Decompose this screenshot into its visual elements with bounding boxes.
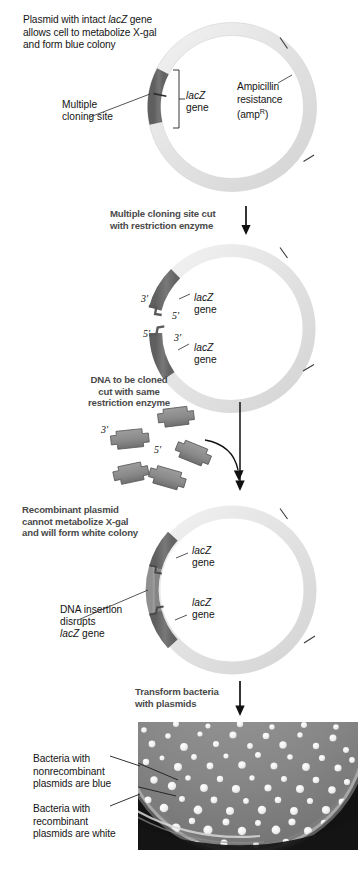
label-lacz-gene-upper: lacZ gene xyxy=(194,292,217,316)
insertion-line1: DNA insertion xyxy=(60,604,152,616)
down-arrow-icon xyxy=(232,681,248,717)
panel3-line3: and will form white colony xyxy=(22,527,182,539)
prime-label-5-lower: 5′ xyxy=(143,328,150,339)
label-leader-lines xyxy=(110,750,142,820)
label-ampicillin-resistance: Ampicillin resistance (ampR) xyxy=(237,81,282,122)
step1-line2: with restriction enzyme xyxy=(110,220,242,232)
gene-word: gene xyxy=(194,354,217,366)
prime-label-3-lower: 3′ xyxy=(174,332,181,343)
lacz-bracket xyxy=(173,70,179,128)
label-lacz-gene-lower-panel3: lacZ gene xyxy=(192,597,215,621)
down-arrow-icon xyxy=(232,402,248,492)
petri-dish-photo xyxy=(138,722,358,850)
white-line3: plasmids are white xyxy=(33,828,145,841)
figure-canvas: Plasmid with intact lacZ gene allows cel… xyxy=(0,0,360,872)
leader-line-lacz-lower xyxy=(178,344,189,350)
prime-label-3-upper: 3′ xyxy=(141,293,148,304)
restriction-site-tick xyxy=(304,155,315,162)
lacz-italic: lacZ xyxy=(186,90,209,102)
dna-fragment xyxy=(110,428,150,450)
amp-line3-pre: (amp xyxy=(237,110,260,121)
label-lacz-gene-panel1: lacZ gene xyxy=(186,90,209,114)
lacz-italic: lacZ xyxy=(194,342,217,354)
step1-heading: Multiple cloning site cut with restricti… xyxy=(110,208,242,231)
gene-word: gene xyxy=(192,609,215,621)
caption-text: and form blue colony xyxy=(23,39,191,52)
label-lacz-gene-upper-panel3: lacZ gene xyxy=(192,545,215,569)
lacz-gene-lower-fragment xyxy=(156,333,170,376)
lacz-italic: lacZ xyxy=(60,628,79,639)
lacz-italic: lacZ xyxy=(192,545,215,557)
caption-text: gene xyxy=(127,14,152,25)
caption-text: Plasmid with intact xyxy=(23,14,108,25)
amp-line3-post: ) xyxy=(265,110,268,121)
leader-line-lacz-lower xyxy=(175,615,187,620)
fragment-prime-label-5: 5′ xyxy=(154,444,161,455)
lacz-gene-upper-fragment xyxy=(155,274,175,309)
step2-line1: DNA to be cloned xyxy=(58,374,200,386)
mcs-label-line1: Multiple xyxy=(62,99,134,111)
lacz-italic: lacZ xyxy=(192,597,215,609)
label-multiple-cloning-site: Multiple cloning site xyxy=(62,99,134,123)
panel3-line2: cannot metabolize X-gal xyxy=(22,516,182,528)
inserted-dna-segment xyxy=(152,568,155,612)
insertion-line2: disrupts xyxy=(60,616,152,628)
panel1-caption: Plasmid with intact lacZ gene allows cel… xyxy=(23,14,191,52)
insertion-line3-post: gene xyxy=(79,628,105,639)
label-lacz-gene-lower: lacZ gene xyxy=(194,342,217,366)
amp-line1: Ampicillin xyxy=(237,81,282,94)
gene-word: gene xyxy=(192,557,215,569)
dna-fragment xyxy=(157,406,195,428)
dna-fragment xyxy=(147,464,188,492)
panel3-caption: Recombinant plasmid cannot metabolize X-… xyxy=(22,504,182,539)
lacz-gene-segment xyxy=(154,71,163,123)
amp-line2: resistance xyxy=(237,94,282,107)
leader-line-lacz-upper xyxy=(176,553,188,558)
fragment-prime-label-3: 3′ xyxy=(101,424,108,435)
restriction-site-tick xyxy=(280,509,288,520)
mcs-label-line2: cloning site xyxy=(62,111,134,123)
panel3-line1: Recombinant plasmid xyxy=(22,504,182,516)
gene-word: gene xyxy=(194,304,217,316)
restriction-site-tick xyxy=(304,636,315,643)
label-dna-insertion: DNA insertion disrupts lacZ gene xyxy=(60,604,152,640)
leader-line-lacz-upper xyxy=(179,294,190,299)
gene-word: gene xyxy=(186,102,209,114)
step2-line2: cut with same xyxy=(58,386,200,398)
lacz-italic: lacZ xyxy=(108,14,127,25)
step1-line1: Multiple cloning site cut xyxy=(110,208,242,220)
restriction-site-tick xyxy=(280,248,288,259)
caption-text: allows cell to metabolize X-gal xyxy=(23,27,191,40)
plasmid-backbone xyxy=(154,29,310,185)
prime-label-5-upper: 5′ xyxy=(172,310,179,321)
lacz-italic: lacZ xyxy=(194,292,217,304)
dna-fragment xyxy=(112,461,150,486)
